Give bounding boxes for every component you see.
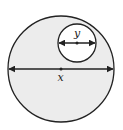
- label-x: x: [58, 71, 65, 84]
- circles-figure: x y: [0, 0, 123, 130]
- label-y: y: [73, 27, 81, 40]
- diagram: x y: [0, 0, 123, 130]
- small-center-dot: [76, 42, 79, 45]
